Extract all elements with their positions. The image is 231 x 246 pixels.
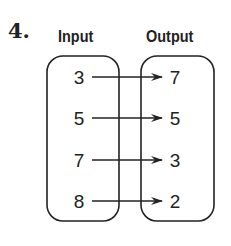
input-value: 7 <box>74 150 85 171</box>
input-value: 5 <box>74 108 85 129</box>
mapping-row: 5 5 <box>74 108 181 129</box>
output-value: 7 <box>170 67 181 88</box>
output-value: 3 <box>170 150 181 171</box>
input-value: 3 <box>74 67 85 88</box>
input-value: 8 <box>74 191 85 212</box>
mapping-row: 3 7 <box>74 67 181 88</box>
output-value: 2 <box>170 191 181 212</box>
mapping-diagram: 3 7 5 5 7 3 8 2 <box>0 0 231 246</box>
output-value: 5 <box>170 108 181 129</box>
mapping-row: 8 2 <box>74 191 181 212</box>
mapping-row: 7 3 <box>74 150 181 171</box>
